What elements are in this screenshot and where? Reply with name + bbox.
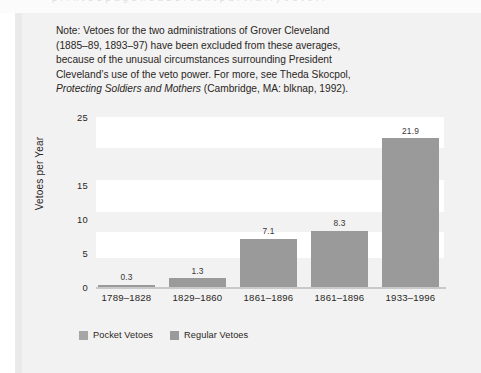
bar-slot: 8.3 [311,117,368,287]
bar [382,138,439,287]
bar-value-label: 8.3 [311,218,368,228]
bar-slot: 0.3 [98,117,155,287]
y-axis-tick-label: 5 [58,248,88,259]
bar-slot: 21.9 [382,117,439,287]
bar [169,278,226,287]
y-axis-title: Vetoes per Year [34,109,45,239]
legend-label: Pocket Vetoes [93,330,153,340]
bar [311,231,368,287]
x-axis-line [96,287,446,289]
figure-panel: p r i n t e d p a g e h e a d e r t e x … [0,0,481,373]
plot-area: 0.31.37.18.321.9 [96,117,444,287]
bar-slot: 7.1 [240,117,297,287]
y-axis-tick-label: 0 [58,282,88,293]
bar-group: 0.31.37.18.321.9 [96,117,444,287]
bar-value-label: 7.1 [240,226,297,236]
bar-value-label: 0.3 [98,272,155,282]
legend-item[interactable]: Pocket Vetoes [79,330,153,340]
chart-legend: Pocket VetoesRegular Vetoes [79,330,248,340]
legend-swatch-icon [79,331,88,340]
bar-chart: 0.31.37.18.321.9 25151050 Vetoes per Yea… [0,0,481,373]
y-axis-tick-label: 25 [58,112,88,123]
legend-swatch-icon [170,331,179,340]
legend-item[interactable]: Regular Vetoes [170,330,248,340]
x-axis-tick-label: 1933–1996 [368,292,454,303]
bar [240,239,297,287]
bar-value-label: 21.9 [382,126,439,136]
bar-slot: 1.3 [169,117,226,287]
y-axis-tick-label: 10 [58,214,88,225]
y-axis-tick-label: 15 [58,180,88,191]
bar-value-label: 1.3 [169,266,226,276]
legend-label: Regular Vetoes [184,330,248,340]
